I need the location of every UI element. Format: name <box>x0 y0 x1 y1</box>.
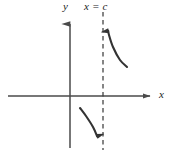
asymptote-diagram: y x x = c <box>0 0 171 153</box>
y-axis-label: y <box>63 1 68 12</box>
x-axis-label: x <box>159 89 164 100</box>
asymptote-label-equals: = <box>93 0 100 12</box>
asymptote-label-value: c <box>103 0 108 12</box>
curve-branch-lower-left <box>80 108 97 137</box>
diagram-canvas <box>0 0 171 153</box>
curve-branch-upper-right <box>108 31 127 67</box>
asymptote-label: x = c <box>84 1 108 12</box>
asymptote-label-variable: x <box>84 0 89 12</box>
